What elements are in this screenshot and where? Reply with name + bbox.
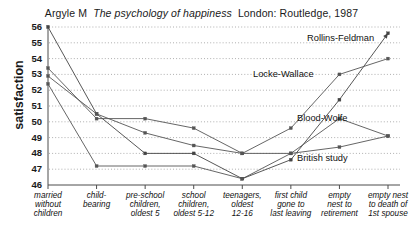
series-marker [95, 117, 98, 120]
x-tick-label-line: children, [120, 200, 170, 209]
series-marker [192, 165, 195, 168]
x-tick-label-line: teenagers, [217, 191, 267, 200]
series-label: Locke-Wallace [253, 69, 314, 79]
x-tick-label-line: retirement [314, 209, 364, 218]
series-marker [144, 152, 147, 155]
x-tick-label-line: nest to [314, 200, 364, 209]
series-marker [387, 135, 390, 138]
x-tick-label-line: empty [314, 191, 364, 200]
x-tick-label-line: married [23, 191, 73, 200]
x-tick-label-line: first child [266, 191, 316, 200]
series-marker [289, 158, 292, 161]
x-tick-label: first childgone tolast leaving [266, 191, 316, 219]
series-marker [192, 152, 195, 155]
x-tick-label: child-bearing [72, 191, 122, 209]
x-tick-label: schoolchildren,oldest 5-12 [169, 191, 219, 219]
series-marker [144, 117, 147, 120]
series-marker [144, 131, 147, 134]
x-tick-label-line: bearing [72, 200, 122, 209]
series-marker [47, 26, 50, 29]
series-marker [144, 165, 147, 168]
series-label: Rollins-Feldman [307, 33, 374, 43]
series-marker [95, 112, 98, 115]
series-marker [47, 82, 50, 85]
x-tick-label-line: pre-school [120, 191, 170, 200]
x-tick-label-line: last leaving [266, 209, 316, 218]
series-arrow-head [383, 33, 388, 38]
series-marker [338, 73, 341, 76]
x-tick-label-line: oldest [217, 200, 267, 209]
x-tick-label-line: oldest 5-12 [169, 209, 219, 218]
series-label: British study [297, 153, 348, 163]
series-marker [241, 152, 244, 155]
x-tick-label: marriedwithoutchildren [23, 191, 73, 219]
x-tick-label-line: oldest 5 [120, 209, 170, 218]
x-tick-label-line: 12-16 [217, 209, 267, 218]
series-marker [338, 146, 341, 149]
series-marker [241, 177, 244, 180]
x-tick-label: teenagers,oldest12-16 [217, 191, 267, 219]
series-marker [47, 74, 50, 77]
x-tick-label-line: to death of [363, 200, 413, 209]
series-marker [289, 152, 292, 155]
series-marker [192, 127, 195, 130]
x-tick-label: emptynest toretirement [314, 191, 364, 219]
x-tick-label-line: 1st spouse [363, 209, 413, 218]
x-tick-label-line: children, [169, 200, 219, 209]
series-marker [192, 144, 195, 147]
series-label: Blood-Wolfe [297, 113, 347, 123]
x-tick-label: pre-schoolchildren,oldest 5 [120, 191, 170, 219]
x-tick-label-line: empty nest [363, 191, 413, 200]
x-tick-label-line: without [23, 200, 73, 209]
series-marker [338, 98, 341, 101]
series-marker [387, 57, 390, 60]
series-line-british-study [48, 84, 388, 179]
x-tick-label-line: gone to [266, 200, 316, 209]
x-tick-label-line: school [169, 191, 219, 200]
series-marker [95, 165, 98, 168]
series-marker [289, 127, 292, 130]
x-tick-label-line: child- [72, 191, 122, 200]
x-tick-label-line: children [23, 209, 73, 218]
series-marker [47, 67, 50, 70]
x-tick-label: empty nestto death of1st spouse [363, 191, 413, 219]
